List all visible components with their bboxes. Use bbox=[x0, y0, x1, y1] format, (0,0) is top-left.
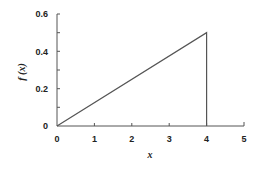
data-line bbox=[57, 33, 207, 126]
x-tick-label: 5 bbox=[241, 134, 246, 144]
y-tick-label: 0.6 bbox=[35, 9, 48, 19]
x-tick-labels: 0 1 2 3 4 5 bbox=[54, 134, 246, 144]
y-tick-labels: 0.6 0.4 0.2 0 bbox=[35, 9, 48, 131]
chart: 0.6 0.4 0.2 0 0 1 2 3 4 5 x f (x) bbox=[0, 0, 258, 169]
y-axis-label: f (x) bbox=[16, 63, 28, 81]
x-tick-label: 3 bbox=[167, 134, 172, 144]
y-tick-label: 0.4 bbox=[35, 47, 48, 57]
x-tick-label: 2 bbox=[129, 134, 134, 144]
x-tick-label: 0 bbox=[54, 134, 59, 144]
x-tick-label: 1 bbox=[92, 134, 97, 144]
y-tick-label: 0 bbox=[43, 121, 48, 131]
x-axis-label: x bbox=[147, 149, 153, 160]
x-tick-label: 4 bbox=[204, 134, 209, 144]
x-ticks bbox=[94, 122, 244, 126]
y-tick-label: 0.2 bbox=[35, 84, 48, 94]
